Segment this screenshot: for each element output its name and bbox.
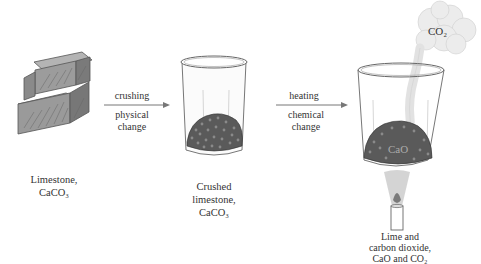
crushed-limestone-label-line-1: Crushed	[174, 180, 254, 193]
crushed-limestone-label-line-3: CaCO₃	[174, 206, 254, 219]
crushing-change-line-2: change	[104, 121, 160, 133]
crushing-change-label: physical change	[104, 109, 160, 133]
limestone-label: Limestone, CaCO₃	[14, 173, 94, 199]
lime-label-line-1: Lime and	[350, 231, 450, 242]
crushing-change-line-1: physical	[104, 109, 160, 121]
limestone-label-line-2: CaCO₃	[14, 186, 94, 199]
heating-change-label: chemical change	[276, 109, 336, 133]
crushing-process-label: crushing	[104, 90, 160, 101]
cao-label: CaO	[388, 143, 408, 155]
crushed-limestone-label-line-2: limestone,	[174, 193, 254, 206]
heating-process-label: heating	[276, 90, 332, 101]
limestone-label-line-1: Limestone,	[14, 173, 94, 186]
co2-label: CO₂	[428, 25, 447, 37]
crushed-limestone-label: Crushed limestone, CaCO₃	[174, 180, 254, 219]
lime-and-co2-label: Lime and carbon dioxide, CaO and CO₂	[350, 231, 450, 264]
lime-label-line-3: CaO and CO₂	[350, 253, 450, 264]
heating-change-line-2: change	[276, 121, 336, 133]
heating-change-line-1: chemical	[276, 109, 336, 121]
lime-label-line-2: carbon dioxide,	[350, 242, 450, 253]
